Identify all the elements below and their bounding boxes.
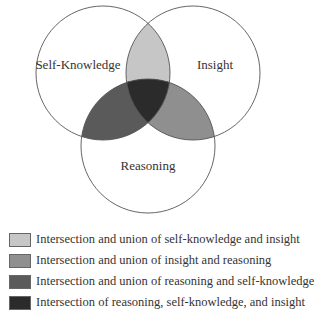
label-reasoning: Reasoning — [121, 158, 176, 173]
legend-swatch — [9, 254, 31, 268]
label-insight: Insight — [197, 57, 234, 72]
legend-label: Intersection and union of reasoning and … — [36, 274, 314, 289]
legend-label: Intersection and union of insight and re… — [36, 253, 271, 268]
legend-item: Intersection and union of insight and re… — [9, 250, 314, 271]
legend-item: Intersection and union of reasoning and … — [9, 271, 314, 292]
legend-item: Intersection and union of self-knowledge… — [9, 229, 314, 250]
venn-diagram: Self-Knowledge Insight Reasoning — [0, 0, 315, 225]
label-self-knowledge: Self-Knowledge — [35, 57, 120, 72]
legend-swatch — [9, 296, 31, 310]
legend-swatch — [9, 233, 31, 247]
legend-swatch — [9, 275, 31, 289]
legend-label: Intersection and union of self-knowledge… — [36, 232, 300, 247]
legend-label: Intersection of reasoning, self-knowledg… — [36, 295, 305, 310]
legend-item: Intersection of reasoning, self-knowledg… — [9, 292, 314, 313]
legend: Intersection and union of self-knowledge… — [9, 229, 314, 313]
